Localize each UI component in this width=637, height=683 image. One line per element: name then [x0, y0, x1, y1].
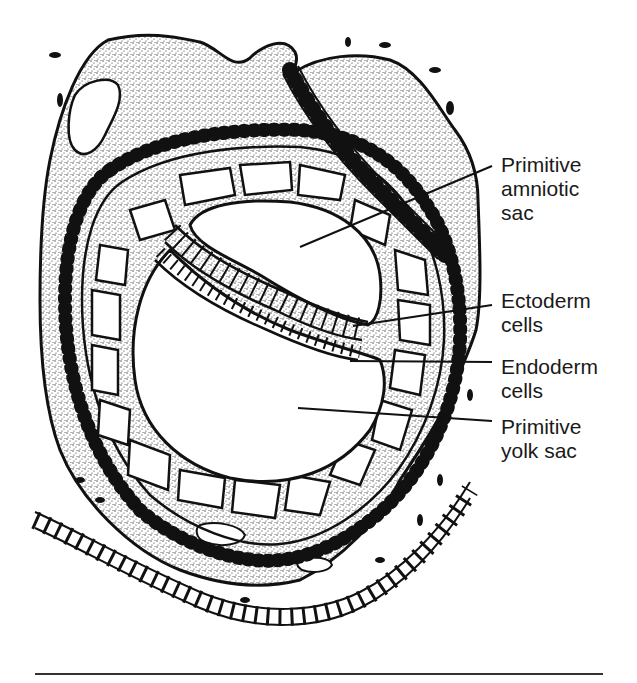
- label-ectoderm-cells: Ectoderm cells: [501, 289, 591, 337]
- label-line: amniotic: [501, 177, 582, 201]
- embryo-cross-section-diagram: [0, 0, 637, 683]
- leader-endoderm: [350, 361, 492, 362]
- label-line: sac: [501, 201, 582, 225]
- label-line: Endoderm: [501, 355, 598, 379]
- label-line: Ectoderm: [501, 289, 591, 313]
- label-endoderm-cells: Endoderm cells: [501, 355, 598, 403]
- label-line: yolk sac: [501, 439, 582, 463]
- bottom-divider-rule: [35, 673, 603, 675]
- label-primitive-yolk-sac: Primitive yolk sac: [501, 415, 582, 463]
- label-line: Primitive: [501, 153, 582, 177]
- label-line: cells: [501, 313, 591, 337]
- label-line: cells: [501, 379, 598, 403]
- label-primitive-amniotic-sac: Primitive amniotic sac: [501, 153, 582, 225]
- label-line: Primitive: [501, 415, 582, 439]
